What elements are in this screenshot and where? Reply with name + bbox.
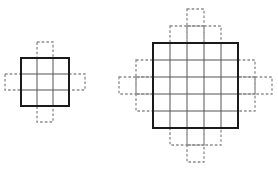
solid-outline-left xyxy=(21,58,69,106)
ghost-cell xyxy=(119,77,136,94)
ghost-cell xyxy=(204,128,221,145)
ghost-cell xyxy=(37,106,53,122)
ghost-cell xyxy=(37,42,53,58)
interior-line-layer-left xyxy=(21,58,69,106)
ghost-cell xyxy=(187,9,204,26)
ghost-cell xyxy=(238,60,255,77)
ghost-cell xyxy=(238,77,255,94)
ghost-cell xyxy=(204,26,221,43)
ghost-cell xyxy=(5,74,21,90)
ghost-cell xyxy=(170,26,187,43)
interior-line-layer-right xyxy=(153,43,238,128)
ghost-cell xyxy=(187,26,204,43)
ghost-cell xyxy=(136,77,153,94)
panel-left-grid xyxy=(5,42,85,122)
panel-right-grid xyxy=(119,9,272,162)
solid-outline-right xyxy=(153,43,238,128)
ghost-cell xyxy=(170,128,187,145)
ghost-cell xyxy=(238,94,255,111)
ghost-cell xyxy=(136,94,153,111)
ghost-cell xyxy=(187,128,204,145)
ghost-cell xyxy=(136,60,153,77)
grid-outer-boundary xyxy=(21,58,69,106)
ghost-cell-layer-left xyxy=(5,42,85,122)
grid-outer-boundary xyxy=(153,43,238,128)
grid-stencil-diagram xyxy=(0,0,278,172)
ghost-cell xyxy=(255,77,272,94)
ghost-cell xyxy=(69,74,85,90)
ghost-cell-layer-right xyxy=(119,9,272,162)
ghost-cell xyxy=(187,145,204,162)
